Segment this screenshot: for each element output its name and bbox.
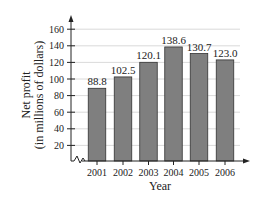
y-tick-label: 120	[49, 57, 64, 68]
x-tick-label: 2002	[113, 167, 133, 178]
axis-break-zigzag-icon	[71, 156, 85, 163]
x-tick-label: 2003	[139, 167, 159, 178]
y-axis-title-line-1: Net profit	[19, 71, 33, 119]
x-axis-title: Year	[149, 179, 171, 193]
bar-2004	[165, 47, 183, 161]
x-tick-label: 2005	[189, 167, 209, 178]
x-tick-label: 2006	[215, 167, 235, 178]
value-label: 138.6	[161, 34, 186, 46]
bar-2005	[190, 54, 208, 161]
x-axis-arrow-icon	[243, 159, 250, 164]
value-label: 120.1	[136, 49, 161, 61]
value-label: 102.5	[111, 64, 136, 76]
value-label: 123.0	[213, 47, 238, 59]
y-axis-title-line-2: (in millions of dollars)	[32, 41, 46, 149]
y-axis-arrow-icon	[69, 15, 74, 22]
bar-2006	[216, 60, 234, 161]
x-tick-label: 2004	[164, 167, 184, 178]
value-label: 130.7	[187, 41, 212, 53]
x-tick-label: 2001	[87, 167, 107, 178]
y-tick-label: 160	[49, 24, 64, 35]
y-axis-title: Net profit (in millions of dollars)	[19, 41, 46, 149]
bar-2003	[140, 62, 158, 161]
bar-2001	[88, 88, 106, 161]
x-axis-ticks: 200120022003200420052006	[87, 161, 235, 178]
y-tick-label: 140	[49, 40, 64, 51]
y-tick-label: 20	[54, 140, 64, 151]
bar-chart: 20406080100120140160 2001200220032004200…	[0, 0, 262, 203]
y-tick-label: 40	[54, 123, 64, 134]
bar-2002	[114, 77, 132, 161]
y-tick-label: 60	[54, 107, 64, 118]
y-tick-label: 80	[54, 90, 64, 101]
y-tick-label: 100	[49, 74, 64, 85]
value-label: 88.8	[87, 75, 107, 87]
